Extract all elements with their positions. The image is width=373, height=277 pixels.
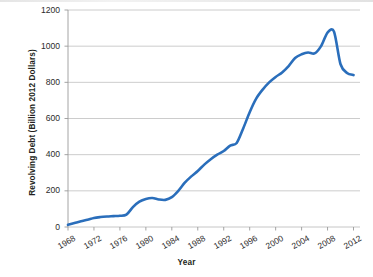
y-axis-title: Revolving Debt (Billion 2012 Dollars) xyxy=(28,33,37,213)
series-line-revolving-debt xyxy=(68,29,354,224)
gridlines xyxy=(68,10,360,227)
chart-page: 020040060080010001200 196819721976198019… xyxy=(0,0,373,277)
y-tick-label: 0 xyxy=(26,222,60,232)
y-tick-label: 1200 xyxy=(26,5,60,15)
x-axis-title: Year xyxy=(0,258,373,267)
x-tick-marks xyxy=(68,227,354,231)
line-chart: 020040060080010001200 196819721976198019… xyxy=(0,0,373,277)
y-tick-marks xyxy=(65,10,69,227)
